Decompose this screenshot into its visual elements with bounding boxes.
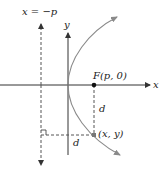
directrix-label: x = −p [22,6,58,17]
x-axis-label: x [153,79,159,90]
focus-label: F(p, 0) [92,70,127,81]
point-label: (x, y) [98,128,124,139]
y-axis-label: y [63,19,70,30]
distance-label-directrix: d [73,137,79,148]
distance-label-focus: d [99,103,105,114]
parabola-point [92,133,96,137]
parabola-diagram: x y x = −p F(p, 0) (x, y) d d [0,0,162,173]
right-angle-marker [41,130,46,135]
focus-point [92,83,97,88]
